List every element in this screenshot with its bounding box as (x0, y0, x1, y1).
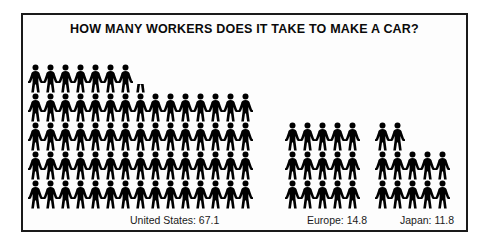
worker-figure-icon (28, 151, 43, 180)
pictogram-plot-area (23, 41, 466, 209)
pictogram-row (28, 64, 253, 93)
worker-figure-icon (193, 180, 208, 209)
worker-figure-icon (435, 151, 450, 180)
worker-figure-icon (178, 122, 193, 151)
pictogram-row (285, 151, 360, 180)
worker-figure-icon (223, 151, 238, 180)
worker-figure-icon (103, 151, 118, 180)
worker-figure-icon (133, 122, 148, 151)
worker-figure-icon (223, 122, 238, 151)
worker-figure-icon (43, 180, 58, 209)
worker-figure-icon (300, 180, 315, 209)
worker-figure-icon (58, 122, 73, 151)
worker-figure-icon (193, 93, 208, 122)
chart-title: HOW MANY WORKERS DOES IT TAKE TO MAKE A … (23, 22, 466, 36)
worker-figure-icon (163, 122, 178, 151)
worker-figure-icon (58, 64, 73, 93)
chart-frame: HOW MANY WORKERS DOES IT TAKE TO MAKE A … (21, 13, 468, 232)
worker-figure-icon (193, 151, 208, 180)
worker-figure-icon (163, 93, 178, 122)
worker-figure-icon (178, 93, 193, 122)
worker-figure-icon (238, 151, 253, 180)
worker-figure-icon (390, 151, 405, 180)
worker-figure-icon (420, 151, 435, 180)
worker-figure-icon (375, 180, 390, 209)
worker-figure-icon (133, 151, 148, 180)
worker-figure-icon (208, 151, 223, 180)
worker-figure-icon (103, 64, 118, 93)
worker-figure-icon (103, 180, 118, 209)
worker-figure-icon (28, 180, 43, 209)
worker-figure-icon (208, 93, 223, 122)
worker-figure-icon (330, 122, 345, 151)
worker-figure-icon (315, 122, 330, 151)
worker-figure-icon (148, 151, 163, 180)
worker-figure-icon (405, 180, 420, 209)
worker-figure-icon (28, 64, 43, 93)
group-caption-japan: Japan: 11.8 (400, 214, 454, 226)
worker-figure-icon (223, 93, 238, 122)
pictogram-row (28, 180, 253, 209)
worker-figure-icon (73, 64, 88, 93)
pictogram-group-europe (285, 122, 360, 209)
worker-figure-icon (375, 151, 390, 180)
pictogram-row (375, 151, 450, 180)
worker-figure-icon (43, 122, 58, 151)
worker-figure-icon (103, 93, 118, 122)
worker-figure-icon (148, 122, 163, 151)
caption-row: United States: 67.1Europe: 14.8Japan: 11… (23, 208, 466, 226)
worker-figure-icon (28, 93, 43, 122)
worker-figure-icon (163, 180, 178, 209)
worker-figure-icon (133, 180, 148, 209)
worker-figure-icon (300, 151, 315, 180)
worker-figure-icon (58, 151, 73, 180)
worker-figure-icon (88, 151, 103, 180)
worker-figure-icon (28, 122, 43, 151)
worker-figure-partial-icon (133, 84, 148, 93)
worker-figure-partial-icon (390, 122, 402, 151)
worker-figure-icon (300, 122, 315, 151)
worker-figure-icon (58, 93, 73, 122)
pictogram-row (375, 180, 450, 209)
group-caption-europe: Europe: 14.8 (307, 214, 367, 226)
worker-figure-icon (208, 180, 223, 209)
worker-figure-icon (148, 93, 163, 122)
worker-figure-icon (238, 180, 253, 209)
worker-figure-icon (73, 93, 88, 122)
worker-figure-icon (285, 122, 300, 151)
worker-figure-icon (43, 64, 58, 93)
worker-figure-partial-icon (345, 122, 357, 151)
worker-figure-icon (285, 180, 300, 209)
worker-figure-icon (73, 151, 88, 180)
worker-figure-icon (390, 180, 405, 209)
worker-figure-icon (435, 180, 450, 209)
worker-figure-icon (103, 122, 118, 151)
worker-figure-icon (43, 151, 58, 180)
worker-figure-icon (118, 151, 133, 180)
worker-figure-icon (118, 122, 133, 151)
worker-figure-icon (43, 93, 58, 122)
pictogram-row (285, 122, 360, 151)
pictogram-row (375, 122, 450, 151)
worker-figure-icon (285, 151, 300, 180)
pictogram-group-united-states (28, 64, 253, 209)
worker-figure-icon (88, 122, 103, 151)
worker-figure-icon (375, 122, 390, 151)
pictogram-row (28, 151, 253, 180)
worker-figure-icon (58, 180, 73, 209)
worker-figure-icon (193, 122, 208, 151)
worker-figure-icon (73, 180, 88, 209)
worker-figure-icon (73, 122, 88, 151)
worker-figure-icon (88, 180, 103, 209)
worker-figure-icon (163, 151, 178, 180)
pictogram-group-japan (375, 122, 450, 209)
worker-figure-icon (133, 93, 148, 122)
worker-figure-icon (118, 180, 133, 209)
worker-figure-icon (315, 180, 330, 209)
worker-figure-icon (330, 151, 345, 180)
worker-figure-icon (208, 122, 223, 151)
pictogram-row (28, 122, 253, 151)
pictogram-row (28, 93, 253, 122)
worker-figure-icon (118, 64, 133, 93)
worker-figure-icon (178, 151, 193, 180)
